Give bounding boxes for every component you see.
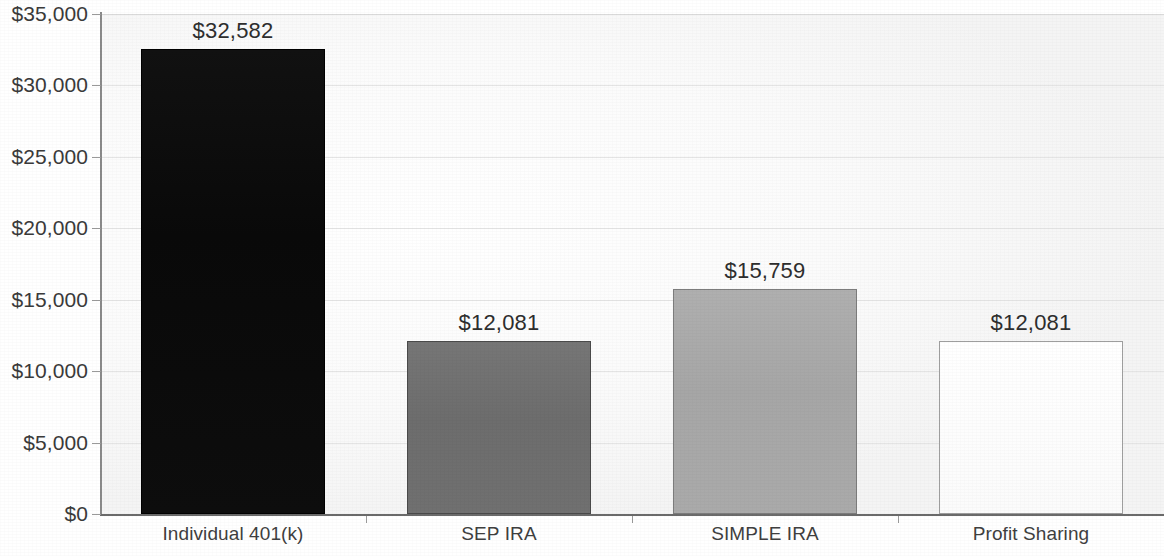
bar-value-label: $12,081 bbox=[939, 312, 1123, 334]
bar-value-label: $12,081 bbox=[407, 312, 591, 334]
x-axis-tick bbox=[898, 516, 899, 523]
x-axis-category-label: Individual 401(k) bbox=[100, 524, 366, 543]
y-axis-tick-label: $35,000 bbox=[11, 3, 88, 24]
y-axis-tick bbox=[92, 228, 101, 229]
y-axis-tick bbox=[92, 85, 101, 86]
y-axis-tick bbox=[92, 371, 101, 372]
y-axis-tick bbox=[92, 157, 101, 158]
bar-profit-sharing[interactable] bbox=[939, 341, 1123, 514]
bar-value-label: $32,582 bbox=[141, 20, 325, 42]
bar-individual-401-k[interactable] bbox=[141, 49, 325, 514]
y-axis-tick-label: $5,000 bbox=[23, 432, 88, 453]
y-axis-tick-label: $0 bbox=[64, 503, 88, 524]
bar-value-label: $15,759 bbox=[673, 260, 857, 282]
gridline bbox=[100, 14, 1164, 15]
y-axis-tick bbox=[92, 300, 101, 301]
y-axis-tick-label: $30,000 bbox=[11, 74, 88, 95]
y-axis-tick-label: $10,000 bbox=[11, 360, 88, 381]
x-axis-category-label: SEP IRA bbox=[366, 524, 632, 543]
x-axis-tick bbox=[366, 516, 367, 523]
x-axis-category-label: SIMPLE IRA bbox=[632, 524, 898, 543]
y-axis-tick-label: $25,000 bbox=[11, 146, 88, 167]
y-axis-tick-label: $15,000 bbox=[11, 289, 88, 310]
y-axis-tick bbox=[92, 443, 101, 444]
y-axis-line bbox=[100, 12, 102, 516]
x-axis-tick bbox=[632, 516, 633, 523]
y-axis-tick bbox=[92, 514, 101, 515]
bar-sep-ira[interactable] bbox=[407, 341, 591, 514]
bar-chart: $0$5,000$10,000$15,000$20,000$25,000$30,… bbox=[0, 0, 1164, 556]
bar-simple-ira[interactable] bbox=[673, 289, 857, 514]
y-axis-tick bbox=[92, 14, 101, 15]
x-axis-category-label: Profit Sharing bbox=[898, 524, 1164, 543]
y-axis-tick-label: $20,000 bbox=[11, 217, 88, 238]
